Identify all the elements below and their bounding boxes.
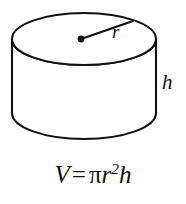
formula-equals-sign: = <box>72 161 86 188</box>
volume-formula: V=πr2h <box>0 160 186 190</box>
radius-label: r <box>112 22 119 41</box>
formula-exponent: 2 <box>111 160 119 177</box>
formula-height-symbol: h <box>119 161 132 188</box>
formula-volume-symbol: V <box>55 161 70 188</box>
formula-pi-symbol: π <box>89 161 102 188</box>
height-label: h <box>162 72 173 93</box>
formula-radius-symbol: r <box>102 161 112 188</box>
cylinder-volume-figure: r h V=πr2h <box>0 0 186 204</box>
center-point-dot <box>78 36 85 43</box>
